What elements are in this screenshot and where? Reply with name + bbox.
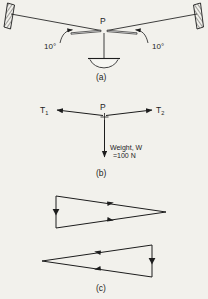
right-cord <box>107 14 197 31</box>
tension-1-label: T1 <box>40 105 48 116</box>
lamp-shade-icon <box>88 59 120 68</box>
part-b-group: P T1 T2 Weight, W =100 N (b) <box>40 102 164 178</box>
force-triangle-1 <box>53 196 166 228</box>
weight-label-line1: Weight, W <box>110 144 143 152</box>
part-a-group: 10° 10° P (a) <box>4 3 204 82</box>
caption-c: (c) <box>96 283 106 293</box>
junction-cross-marker <box>101 113 109 121</box>
left-cord <box>11 14 101 31</box>
tension-2-vector <box>106 110 152 116</box>
left-angle-leader <box>60 30 73 43</box>
triangle-1-top-arrowhead <box>107 202 114 207</box>
caption-a: (a) <box>96 72 107 82</box>
triangle-2-top-arrowhead <box>94 251 101 256</box>
physics-figure: 10° 10° P (a) P T1 <box>0 0 208 299</box>
triangle-2-weight-arrowhead <box>149 258 156 265</box>
left-horizontal-reference-bar <box>71 30 101 34</box>
caption-b: (b) <box>96 168 107 178</box>
triangle-1-weight-arrowhead <box>53 209 60 216</box>
junction-label-b: P <box>100 102 106 112</box>
junction-label-a: P <box>100 16 106 26</box>
right-angle-leader <box>136 30 149 43</box>
part-c-group: (c) <box>42 196 166 293</box>
right-horizontal-reference-bar <box>107 30 137 34</box>
right-wall-anchor-icon <box>194 3 204 29</box>
weight-label-line2: =100 N <box>113 152 136 159</box>
tension-2-label: T2 <box>156 105 164 116</box>
figure-canvas: 10° 10° P (a) P T1 <box>0 0 208 299</box>
tension-1-vector <box>57 110 103 116</box>
force-triangle-2 <box>42 245 155 277</box>
left-angle-label: 10° <box>44 42 56 51</box>
right-angle-label: 10° <box>152 42 164 51</box>
left-wall-anchor-icon <box>4 3 15 29</box>
